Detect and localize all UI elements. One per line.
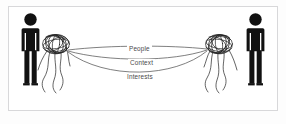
person-silhouette-right (247, 13, 265, 85)
tangled-threads-left (38, 31, 70, 93)
strand-label-people: People (127, 45, 152, 53)
tangled-threads-right (204, 31, 237, 93)
strand-label-context: Context (128, 59, 155, 67)
person-silhouette-left (22, 13, 40, 85)
strand-label-interests: Interests (125, 73, 155, 81)
diagram-canvas: People Context Interests (0, 0, 286, 124)
